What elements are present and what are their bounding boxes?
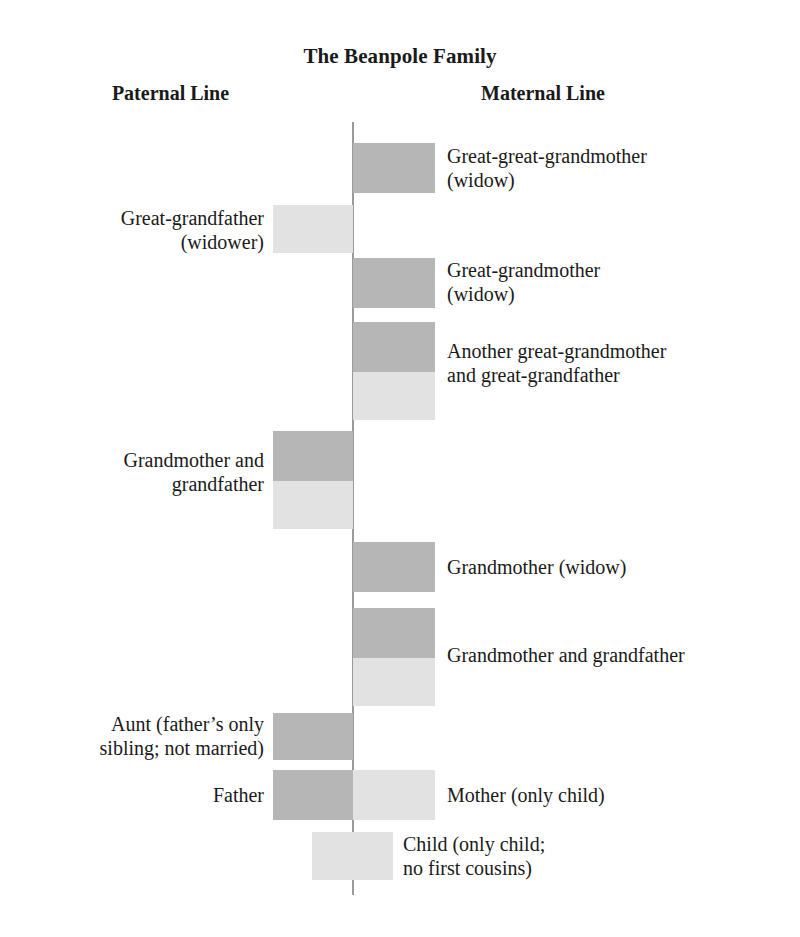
label-great-great-grandmother: Great-great-grandmother (widow) bbox=[447, 145, 777, 192]
bar-great-great-grandmother bbox=[353, 143, 435, 193]
bar-child bbox=[312, 832, 393, 880]
bar-maternal-great-grandmother-couple-female bbox=[353, 322, 435, 372]
label-paternal-grandparents-couple: Grandmother and grandfather bbox=[0, 449, 264, 496]
bar-maternal-great-grandmother bbox=[353, 258, 435, 308]
label-child: Child (only child; no first cousins) bbox=[403, 833, 743, 880]
bar-father bbox=[273, 770, 353, 820]
beanpole-family-diagram: The Beanpole Family Paternal Line Matern… bbox=[0, 0, 800, 937]
label-aunt: Aunt (father’s only sibling; not married… bbox=[0, 713, 264, 760]
label-mother: Mother (only child) bbox=[447, 784, 787, 808]
bar-mother bbox=[353, 770, 435, 820]
bar-maternal-grandmother-couple bbox=[353, 608, 435, 658]
label-maternal-great-grandmother: Great-grandmother (widow) bbox=[447, 259, 777, 306]
column-header-paternal: Paternal Line bbox=[0, 82, 353, 105]
bar-maternal-grandmother-widow bbox=[353, 542, 435, 592]
label-maternal-great-grandparents-couple: Another great-grandmother and great-gran… bbox=[447, 340, 787, 387]
label-maternal-grandparents-couple: Grandmother and grandfather bbox=[447, 644, 792, 668]
bar-aunt bbox=[273, 713, 353, 760]
bar-paternal-great-grandfather bbox=[273, 205, 353, 253]
bar-maternal-great-grandfather-couple-male bbox=[353, 372, 435, 420]
label-maternal-grandmother-widow: Grandmother (widow) bbox=[447, 556, 787, 580]
label-paternal-great-grandfather: Great-grandfather (widower) bbox=[0, 207, 264, 254]
column-header-maternal: Maternal Line bbox=[353, 82, 713, 105]
bar-maternal-grandfather-couple bbox=[353, 658, 435, 706]
bar-paternal-grandmother bbox=[273, 431, 353, 481]
page-title: The Beanpole Family bbox=[0, 44, 800, 69]
bar-paternal-grandfather bbox=[273, 481, 353, 529]
label-father: Father bbox=[0, 784, 264, 808]
